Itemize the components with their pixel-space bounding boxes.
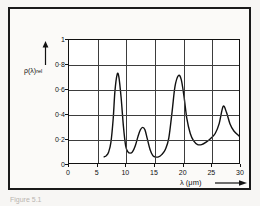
x-axis-ticks: 051015202530 xyxy=(68,164,240,180)
x-tick-mark xyxy=(68,164,69,167)
y-axis-label-sub: rel xyxy=(36,68,42,74)
x-tick-mark xyxy=(183,164,184,167)
x-tick-label: 10 xyxy=(121,169,129,176)
y-tick-label: 0·2 xyxy=(55,136,65,143)
figure-caption: Figure 5.1 xyxy=(10,196,42,205)
x-tick-label: 25 xyxy=(207,169,215,176)
gridline-horizontal xyxy=(69,115,239,116)
y-tick-label: 0·8 xyxy=(55,61,65,68)
gridline-vertical xyxy=(184,40,185,163)
x-tick-mark xyxy=(154,164,155,167)
gridline-vertical xyxy=(98,40,99,163)
gridline-vertical xyxy=(155,40,156,163)
x-tick-mark xyxy=(211,164,212,167)
y-axis-label-main: ρ(λ) xyxy=(24,67,36,74)
y-axis-label: ρ(λ)rel xyxy=(24,67,42,75)
x-tick-label: 30 xyxy=(236,169,244,176)
x-tick-label: 20 xyxy=(179,169,187,176)
figure-root: ρ(λ)rel 00·20·40·60·81 051015202530 λ (μ… xyxy=(0,0,260,206)
x-tick-mark xyxy=(97,164,98,167)
right-arrow-icon xyxy=(215,179,247,187)
plot-area xyxy=(68,39,240,164)
x-tick-label: 5 xyxy=(95,169,99,176)
x-tick-mark xyxy=(240,164,241,167)
y-axis-ticks: 00·20·40·60·81 xyxy=(46,39,65,164)
y-tick-label: 0·4 xyxy=(55,111,65,118)
spectral-curve xyxy=(69,40,239,163)
gridline-vertical xyxy=(212,40,213,163)
x-axis-label: λ (μm) xyxy=(180,179,201,187)
gridline-horizontal xyxy=(69,140,239,141)
gridline-horizontal xyxy=(69,65,239,66)
x-tick-label: 15 xyxy=(150,169,158,176)
gridline-vertical xyxy=(126,40,127,163)
x-tick-label: 0 xyxy=(66,169,70,176)
gridline-horizontal xyxy=(69,90,239,91)
x-tick-mark xyxy=(125,164,126,167)
figure-frame: ρ(λ)rel 00·20·40·60·81 051015202530 λ (μ… xyxy=(8,7,251,190)
y-tick-label: 0·6 xyxy=(55,86,65,93)
